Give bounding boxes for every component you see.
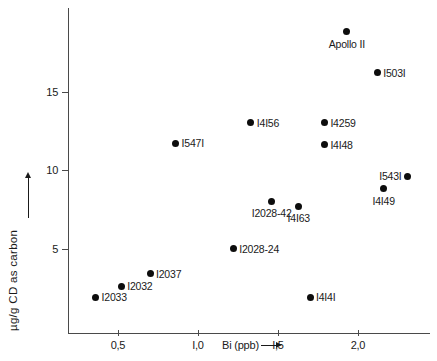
data-point[interactable] [118,283,125,290]
data-point[interactable] [343,28,350,35]
data-point[interactable] [268,198,275,205]
data-point-label: I2037 [156,268,181,280]
y-tick-mark [62,249,69,250]
data-point[interactable] [92,294,99,301]
data-point[interactable] [307,294,314,301]
y-tick-mark [62,170,69,171]
data-point-label: I2033 [102,291,127,303]
y-tick-label: 5 [34,243,58,255]
data-point[interactable] [172,140,179,147]
data-point-label: I4I48 [330,139,352,151]
y-tick-mark [62,92,69,93]
data-point[interactable] [374,69,381,76]
data-point[interactable] [321,119,328,126]
x-tick-label: I,0 [192,339,203,351]
x-axis-line [68,333,430,334]
data-point-label: I543I [379,170,401,182]
x-tick-mark [118,330,119,336]
y-tick-label: 10 [34,164,58,176]
x-tick-mark [198,330,199,336]
x-tick-label: 2,0 [351,339,365,351]
data-point-label: Apollo II [329,38,365,50]
data-point[interactable] [295,203,302,210]
x-tick-label: 0,5 [111,339,125,351]
y-axis-line [68,8,69,334]
data-point[interactable] [321,141,328,148]
data-point-label: I503I [383,67,405,79]
y-axis-title: µg/g CD as carbon [2,150,24,335]
x-axis-title-text: Bi (ppb) [222,339,259,351]
data-point-label: I4I49 [372,195,394,207]
x-tick-mark [358,330,359,336]
data-point-label: I4I56 [257,117,279,129]
x-axis-title: Bi (ppb) [222,339,283,351]
scatter-plot-figure: 0,5I,0I,52,0 51015 Bi (ppb) µg/g CD as c… [0,0,437,361]
data-point[interactable] [147,270,154,277]
data-point[interactable] [380,185,387,192]
data-point[interactable] [230,245,237,252]
right-arrow-icon [261,342,283,349]
up-arrow-icon [24,172,33,218]
data-point-label: I2028-24 [239,243,279,255]
data-point-label: I4259 [330,117,355,129]
data-point-label: I2032 [127,280,152,292]
y-tick-label: 15 [34,86,58,98]
data-point[interactable] [404,173,411,180]
data-point[interactable] [247,119,254,126]
data-point-label: I2028-42 [252,207,292,219]
data-point-label: I547I [182,137,204,149]
data-point-label: I4I4I [316,291,335,303]
data-point-label: I4I63 [288,212,310,224]
x-tick-mark [278,330,279,336]
y-axis-title-text: µg/g CD as carbon [7,145,19,331]
